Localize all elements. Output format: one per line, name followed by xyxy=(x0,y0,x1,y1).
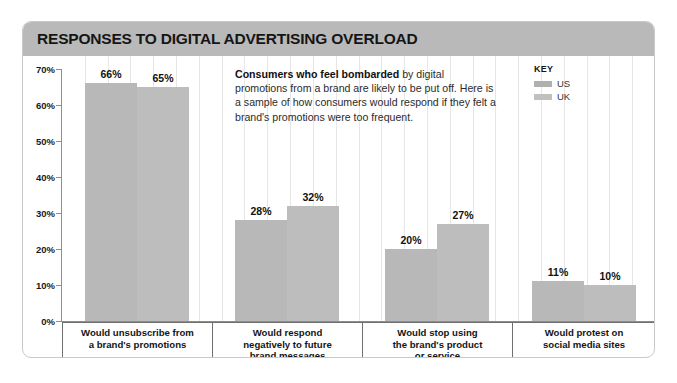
category-label-text: Would unsubscribe froma brand's promotio… xyxy=(81,327,194,350)
category-label-text: Would stop usingthe brand's productor se… xyxy=(393,327,483,358)
y-axis-tick-label: 10% xyxy=(36,280,55,291)
bar-us-group-1 xyxy=(85,83,137,321)
category-label-text: Would respondnegatively to futurebrand m… xyxy=(243,327,332,358)
legend-label: US xyxy=(557,78,570,89)
bar-uk-group-3 xyxy=(437,224,489,321)
y-axis-tick-label: 20% xyxy=(36,244,55,255)
bar-value-label: 65% xyxy=(137,72,189,84)
chart-card: RESPONSES TO DIGITAL ADVERTISING OVERLOA… xyxy=(22,21,655,358)
annotation-text: Consumers who feel bombarded by digital … xyxy=(235,67,497,124)
category-label-line: brand messages xyxy=(243,350,332,358)
category-label-line: or service xyxy=(393,350,483,358)
category-label-line: a brand's promotions xyxy=(81,339,194,351)
y-axis-labels: 70%60%50%40%30%20%10%0% xyxy=(23,56,61,321)
bar-us-group-3 xyxy=(385,249,437,321)
bar-uk-group-2 xyxy=(287,206,339,321)
legend-items: USUK xyxy=(534,77,624,103)
bar-value-label: 28% xyxy=(235,205,287,217)
y-axis-tick-label: 30% xyxy=(36,208,55,219)
bar-uk-group-4 xyxy=(584,285,636,321)
category-label-line: social media sites xyxy=(543,339,625,351)
y-axis-tick-label: 40% xyxy=(36,172,55,183)
legend-item-us: US xyxy=(534,77,624,90)
category-label-line: Would protest on xyxy=(543,327,625,339)
category-label-line: Would unsubscribe from xyxy=(81,327,194,339)
bar-value-label: 10% xyxy=(584,270,636,282)
category-label-text: Would protest onsocial media sites xyxy=(543,327,625,350)
category-label-box-3: Would stop usingthe brand's productor se… xyxy=(362,322,512,358)
y-axis-tick-label: 0% xyxy=(41,316,55,327)
y-axis-tick-label: 70% xyxy=(36,64,55,75)
bar-us-group-4 xyxy=(532,281,584,321)
category-label-box-2: Would respondnegatively to futurebrand m… xyxy=(212,322,362,358)
chart-header-band: RESPONSES TO DIGITAL ADVERTISING OVERLOA… xyxy=(23,22,655,56)
bar-value-label: 32% xyxy=(287,191,339,203)
category-label-row: Would unsubscribe froma brand's promotio… xyxy=(62,322,655,358)
category-label-line: negatively to future xyxy=(243,339,332,351)
legend-item-uk: UK xyxy=(534,90,624,103)
category-label-box-1: Would unsubscribe froma brand's promotio… xyxy=(62,322,212,358)
category-label-box-4: Would protest onsocial media sites xyxy=(512,322,655,358)
legend-label: UK xyxy=(557,91,570,102)
y-axis-tick-label: 60% xyxy=(36,100,55,111)
bar-uk-group-1 xyxy=(137,87,189,321)
legend-swatch-uk xyxy=(534,94,552,100)
legend: KEY USUK xyxy=(534,64,624,103)
bar-value-label: 66% xyxy=(85,68,137,80)
chart-title: RESPONSES TO DIGITAL ADVERTISING OVERLOA… xyxy=(37,30,418,48)
category-label-line: the brand's product xyxy=(393,339,483,351)
annotation-lead: Consumers who feel bombarded xyxy=(235,68,399,80)
chart-infographic: RESPONSES TO DIGITAL ADVERTISING OVERLOA… xyxy=(0,0,677,383)
legend-title: KEY xyxy=(534,64,624,74)
category-label-line: Would respond xyxy=(243,327,332,339)
bar-value-label: 11% xyxy=(532,266,584,278)
y-axis-tick-label: 50% xyxy=(36,136,55,147)
category-label-line: Would stop using xyxy=(393,327,483,339)
bar-value-label: 27% xyxy=(437,209,489,221)
legend-swatch-us xyxy=(534,81,552,87)
plot-area: 70%60%50%40%30%20%10%0% 66%65%28%32%20%2… xyxy=(23,56,655,358)
bar-us-group-2 xyxy=(235,220,287,321)
bar-value-label: 20% xyxy=(385,234,437,246)
